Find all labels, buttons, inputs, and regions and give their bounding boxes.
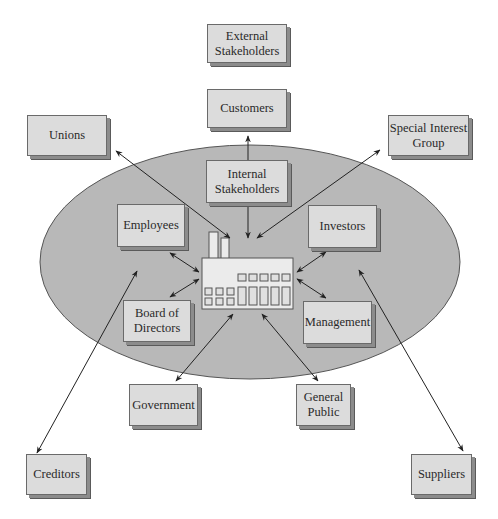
stakeholder-diagram: External Stakeholders Customers Unions S… — [0, 0, 498, 519]
node-management: Management — [303, 301, 372, 344]
node-special-interest-group: Special Interest Group — [388, 115, 469, 156]
node-board-of-directors: Board of Directors — [123, 300, 191, 342]
diagram-canvas — [0, 0, 498, 519]
node-suppliers: Suppliers — [411, 454, 472, 495]
node-unions: Unions — [27, 115, 107, 156]
node-external-stakeholders: External Stakeholders — [207, 24, 287, 63]
node-investors: Investors — [308, 205, 377, 248]
node-customers: Customers — [207, 89, 287, 128]
node-general-public: General Public — [296, 384, 351, 426]
node-internal-stakeholders: Internal Stakeholders — [206, 160, 288, 203]
node-employees: Employees — [117, 204, 185, 247]
node-creditors: Creditors — [26, 454, 87, 495]
node-government: Government — [129, 384, 198, 426]
